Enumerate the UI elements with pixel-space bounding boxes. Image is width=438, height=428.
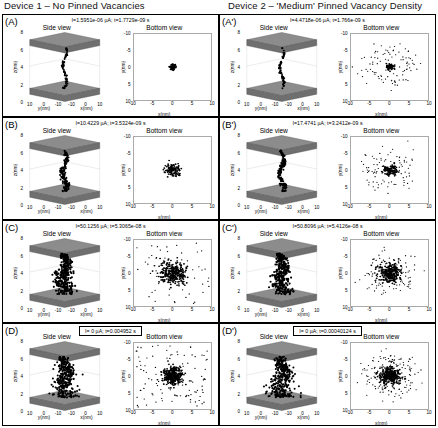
y-axis-label: y(nm): [38, 106, 50, 111]
bottom-view-x-tick: 0: [171, 410, 174, 415]
side-view-axis-ticks: 100-10-10010y(nm)x(nm): [240, 308, 324, 316]
bottom-view-y-tick: 0: [345, 65, 348, 70]
panel-a: (A)I=1.5951e-06 µA; t=1.7729e-09 sSide v…: [2, 14, 219, 117]
device-2-caption: Device 2 – 'Medium' Pinned Vacancy Densi…: [228, 0, 422, 11]
x-tick: -10: [68, 308, 75, 313]
bottom-view-y-label: y(nm): [337, 164, 342, 176]
bottom-view-y-tick: -5: [343, 357, 347, 362]
bottom-view-x-axis: -10-50510: [350, 307, 430, 315]
bottom-view-plot: Bottom view y(nm)-10-50510-10-50510x(nm): [111, 127, 219, 219]
side-view-plot: Side view z(nm)86420 100-10-10010y(nm)x(…: [220, 127, 328, 219]
y-axis-label: y(nm): [255, 209, 267, 214]
bottom-view-x-label: x(nm): [375, 112, 387, 117]
bottom-view-x-tick: 0: [171, 101, 174, 106]
y-tick: 10: [244, 411, 249, 416]
panel-letter: (A): [5, 16, 18, 27]
bottom-view-x-tick: 5: [191, 204, 194, 209]
bottom-view-x-tick: 5: [408, 307, 411, 312]
plot-row: Side view z(nm)86420 100-10-10010y(nm)x(…: [220, 127, 435, 219]
side-view-plot: Side view z(nm)86420 100-10-10010y(nm)x(…: [220, 24, 328, 116]
side-view-canvas: [23, 32, 107, 102]
bottom-view-y-tick: 5: [345, 391, 348, 396]
bottom-view-y-tick: -10: [124, 134, 131, 139]
bottom-view-x-tick: 0: [388, 101, 391, 106]
panel-letter: (D): [5, 325, 18, 336]
side-view-canvas: [240, 135, 324, 205]
bottom-view-x-tick: 5: [191, 410, 194, 415]
bottom-view-y-axis: y(nm)-10-50510: [119, 136, 132, 204]
side-view-axis-ticks: 100-10-10010y(nm)x(nm): [23, 102, 107, 110]
x-tick: 10: [314, 102, 319, 107]
bottom-view-y-tick: -10: [341, 340, 348, 345]
bottom-view-y-tick: 5: [128, 391, 131, 396]
bottom-view-x-label: x(nm): [158, 112, 170, 117]
bottom-view-y-axis: y(nm)-10-50510: [119, 342, 132, 410]
bottom-view-y-label: y(nm): [120, 61, 125, 73]
bottom-view-plot: Bottom view y(nm)-10-50510-10-50510x(nm): [111, 24, 219, 116]
bottom-view-y-tick: -5: [126, 48, 130, 53]
y-tick: -10: [272, 102, 279, 107]
panel-header-text: I=50.1256 µA; t=5.3065e-08 s: [75, 223, 145, 229]
bottom-view-x-tick: 5: [191, 307, 194, 312]
panel-b: (B)I=10.4229 µA; t=3.5324e-09 sSide view…: [2, 117, 219, 220]
panel-header: I=4.4718e-06 µA; t=1.766e-09 s: [220, 17, 435, 23]
x-tick: 10: [314, 411, 319, 416]
bottom-view-canvas: [350, 136, 430, 204]
bottom-view-y-tick: 5: [345, 185, 348, 190]
bottom-view-x-tick: -5: [367, 204, 371, 209]
x-axis-label: x(nm): [297, 106, 309, 111]
bottom-view-y-label: y(nm): [120, 267, 125, 279]
bottom-view-x-tick: 10: [426, 204, 431, 209]
side-view-plot: Side view z(nm)86420 100-10-10010y(nm)x(…: [3, 230, 111, 322]
plot-row: Side view z(nm)86420 100-10-10010y(nm)x(…: [220, 230, 435, 322]
device-1-caption: Device 1 – No Pinned Vacancies: [4, 0, 145, 11]
bottom-view-y-tick: -10: [124, 237, 131, 242]
bottom-view-x-tick: -10: [129, 410, 136, 415]
bottom-view-y-tick: -10: [341, 134, 348, 139]
panel-header: I=17.4741 µA; t=3.2412e-09 s: [220, 120, 435, 126]
panel-letter: (B'): [222, 119, 236, 130]
x-tick: -10: [285, 411, 292, 416]
side-view-axis-ticks: 100-10-10010y(nm)x(nm): [23, 205, 107, 213]
bottom-view-x-tick: -5: [367, 410, 371, 415]
side-view-axis-ticks: 100-10-10010y(nm)x(nm): [240, 205, 324, 213]
x-axis-label: x(nm): [80, 415, 92, 420]
y-tick: 10: [244, 102, 249, 107]
bottom-view-x-axis: -10-50510: [350, 204, 430, 212]
z-axis-label: z(nm): [230, 267, 235, 279]
bottom-view-x-tick: 10: [209, 410, 214, 415]
side-view-title: Side view: [3, 230, 111, 237]
bottom-view-canvas: [133, 342, 213, 410]
y-tick: -10: [272, 411, 279, 416]
plot-row: Side view z(nm)86420 100-10-10010y(nm)x(…: [3, 127, 218, 219]
y-tick: -10: [272, 308, 279, 313]
x-axis-label: x(nm): [297, 312, 309, 317]
bottom-view-x-label: x(nm): [375, 215, 387, 220]
y-axis-label: y(nm): [255, 415, 267, 420]
side-view-plot: Side view z(nm)86420 100-10-10010y(nm)x(…: [220, 333, 328, 425]
bottom-view-y-tick: 5: [128, 185, 131, 190]
bottom-view-y-tick: -10: [124, 31, 131, 36]
x-tick: -10: [68, 205, 75, 210]
bottom-view-y-label: y(nm): [120, 370, 125, 382]
x-tick: -10: [68, 411, 75, 416]
y-axis-label: y(nm): [255, 106, 267, 111]
bottom-view-y-tick: 0: [128, 65, 131, 70]
bottom-view-x-tick: -10: [129, 204, 136, 209]
bottom-view-x-tick: -10: [346, 101, 353, 106]
x-axis-label: x(nm): [297, 415, 309, 420]
bottom-view-y-tick: -10: [341, 31, 348, 36]
bottom-view-x-tick: 5: [408, 204, 411, 209]
bottom-view-x-tick: 10: [209, 101, 214, 106]
bottom-view-x-tick: -10: [129, 101, 136, 106]
bottom-view-canvas: [133, 33, 213, 101]
bottom-view-x-tick: 0: [388, 307, 391, 312]
bottom-view-y-label: y(nm): [337, 61, 342, 73]
bottom-view-x-axis: -10-50510: [133, 204, 213, 212]
panel-header-text: I=50.8096 µA; t=5.4126e-08 s: [292, 223, 362, 229]
bottom-view-x-tick: -5: [150, 307, 154, 312]
bottom-view-plot: Bottom view y(nm)-10-50510-10-50510x(nm): [328, 333, 436, 425]
z-axis: z(nm)86420: [12, 238, 23, 308]
y-tick: 10: [244, 205, 249, 210]
z-axis: z(nm)86420: [229, 341, 240, 411]
